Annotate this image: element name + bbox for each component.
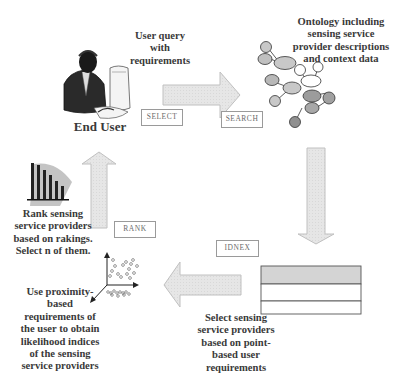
proximity-label: Use proximity- based requirements of the… [18,286,102,373]
point-select-label: Select sensing service providers based o… [196,312,276,374]
rank-label: Rank sensing service providers based on … [10,208,96,258]
end-user-label: End User [60,121,140,133]
arrow-left-icon [164,262,241,307]
user-query-label: User query with requirements [118,30,202,67]
stage-rank: RANK [114,221,156,238]
ontology-label: Ontology including sensing service provi… [284,16,398,66]
stage-idnex: IDNEX [216,240,259,257]
stage-select: SELECT [141,109,183,126]
table-list-icon [261,266,361,314]
bar-chart-icon [27,163,72,206]
stage-search: SEARCH [221,111,263,128]
arrow-down-icon [298,148,334,244]
